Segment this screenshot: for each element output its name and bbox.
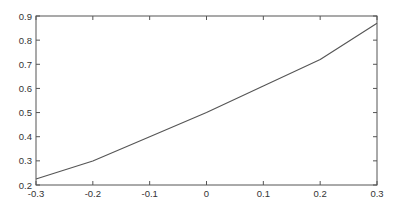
x-tick-label: 0.3 xyxy=(370,188,383,199)
x-tick-label: 0.2 xyxy=(314,188,327,199)
y-tick-label: 0.8 xyxy=(19,35,32,46)
x-tick-label: 0 xyxy=(204,188,209,199)
y-tick-label: 0.7 xyxy=(19,59,32,70)
line-chart: -0.3-0.2-0.100.10.20.3 0.20.30.40.50.60.… xyxy=(0,0,395,211)
y-tick-label: 0.4 xyxy=(19,131,32,142)
y-axis-tick-labels: 0.20.30.40.50.60.70.80.9 xyxy=(19,11,32,191)
data-series xyxy=(36,23,377,179)
y-tick-label: 0.5 xyxy=(19,107,32,118)
y-tick-label: 0.3 xyxy=(19,155,32,166)
axis-ticks xyxy=(36,16,377,185)
x-axis-tick-labels: -0.3-0.2-0.100.10.20.3 xyxy=(28,188,384,199)
x-tick-label: -0.1 xyxy=(141,188,157,199)
y-tick-label: 0.2 xyxy=(19,180,32,191)
series-line xyxy=(36,23,377,179)
y-tick-label: 0.6 xyxy=(19,83,32,94)
y-tick-label: 0.9 xyxy=(19,11,32,22)
x-tick-label: 0.1 xyxy=(257,188,270,199)
plot-frame xyxy=(36,16,377,185)
x-tick-label: -0.2 xyxy=(85,188,101,199)
axes-box xyxy=(36,16,377,185)
